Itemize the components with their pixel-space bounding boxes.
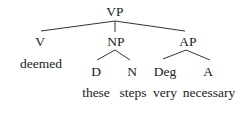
node-a: A [203,65,213,79]
edge-np-d [97,50,115,60]
word-necessary: necessary [183,86,235,100]
edge-vp-v [41,21,115,31]
edge-ap-deg [163,50,186,59]
node-ap: AP [179,35,196,49]
syntax-tree: VP V NP AP D N Deg A deemed these steps … [0,0,244,116]
word-very: very [153,86,177,100]
node-d: D [91,65,101,79]
edge-vp-ap [115,21,185,31]
node-np: NP [107,35,124,49]
edge-np-n [115,50,130,60]
node-vp: VP [106,5,123,19]
word-steps: steps [120,86,147,100]
edge-ap-a [186,50,210,60]
node-n: N [127,65,137,79]
node-deg: Deg [154,65,177,79]
word-these: these [82,86,110,100]
node-v: V [35,35,45,49]
word-deemed: deemed [20,57,62,71]
